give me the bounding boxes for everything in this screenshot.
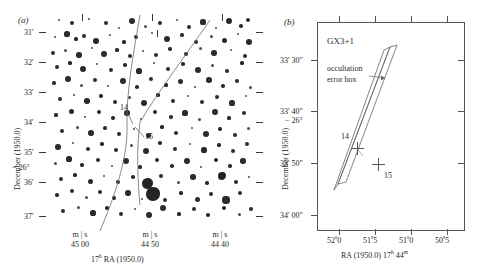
xtick-2-pre: 51 [399,236,407,245]
cross-vertical [357,142,358,155]
pointer-14 [127,112,133,124]
panel-b-x-lead: RA (1950.0) 17 [341,251,391,260]
xtick-1-post: 5 [373,236,377,245]
panel-a-xunits-2: m | s [198,231,242,239]
panel-b-x-sup2: m [404,249,408,255]
pointer-14 [358,150,363,156]
xtick-0-post: 0 [337,236,341,245]
panel-a-xgroup-1: m | s 44 50 [128,231,172,247]
panel-b-marker-label-14: 14 [341,133,349,141]
panel-b-x-axis-title: RA (1950.0) 17h 44m [341,252,408,260]
panel-a: (a) December (1950.0) 31' 32' 33' 34' 35… [0,0,272,271]
panel-b-xtick-3: 50s5 [435,237,449,245]
panel-a-x-hour: 17 [91,255,99,264]
panel-a-xvalue-2: 44 40 [198,241,242,249]
panel-a-source-label-15: 15 [145,133,153,141]
panel-b-x-mid: 44 [394,251,404,260]
panel-b-xtick-0: 52s0 [327,237,341,245]
occultation-error-box [338,45,397,184]
cross-vertical [378,158,379,171]
panel-a-source-label-14: 14 [120,104,128,112]
panel-a-x-axis-title: 17h RA (1950.0) [91,256,144,264]
panel-a-xgroup-2: m | s 44 40 [198,231,242,247]
xtick-2-post: 0 [409,236,413,245]
xtick-3-pre: 50 [435,236,443,245]
panel-a-x-rest: RA (1950.0) [102,255,144,264]
panel-b: (b) December (1950.0) 33' 30" 33' 40" 33… [272,0,490,271]
xtick-0-pre: 52 [327,236,335,245]
panel-b-marker-label-15: 15 [384,172,392,180]
panel-a-xvalue-0: 45 00 [58,241,102,249]
panel-a-xvalue-1: 44 50 [128,241,172,249]
figure-canvas: (a) December (1950.0) 31' 32' 33' 34' 35… [0,0,490,271]
panel-a-xunits-0: m | s [58,231,102,239]
xtick-3-post: 5 [445,236,449,245]
panel-a-xunits-1: m | s [128,231,172,239]
panel-b-xtick-2: 51s0 [399,237,413,245]
panel-b-error-box-group [272,0,490,271]
panel-a-xgroup-0: m | s 45 00 [58,231,102,247]
panel-b-xtick-1: 51s5 [363,237,377,245]
pointer-15 [135,127,144,137]
xtick-1-pre: 51 [363,236,371,245]
occultation-error-box-inner [334,47,390,190]
